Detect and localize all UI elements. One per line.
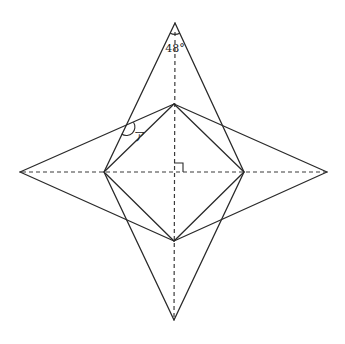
star-net-diagram: 48° ア <box>0 0 345 344</box>
inner-square <box>104 104 244 241</box>
edge-top-tip-to-inner-right <box>175 23 244 172</box>
edge-left-tip-to-inner-top <box>20 104 174 172</box>
edge-left-tip-to-inner-bottom <box>20 172 174 241</box>
apex-angle-label: 48° <box>165 42 185 55</box>
vertical-dashed-axis <box>174 40 175 318</box>
angle-a-label: ア <box>134 131 145 144</box>
edge-inner-right-to-bottom-tip <box>174 172 244 320</box>
edge-inner-bottom-to-right-tip <box>174 172 327 241</box>
edge-inner-left-to-bottom-tip <box>104 172 174 320</box>
right-angle-marker <box>174 163 183 172</box>
edge-inner-top-to-right-tip <box>174 104 327 172</box>
